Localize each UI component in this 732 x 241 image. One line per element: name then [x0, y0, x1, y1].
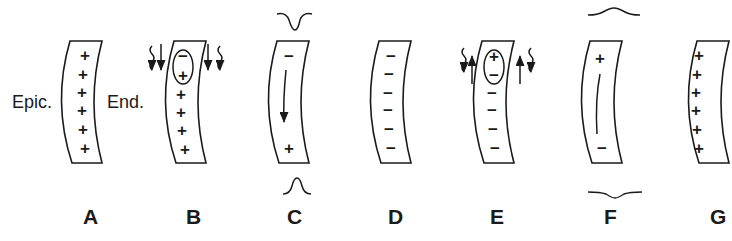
svg-text:+: +	[694, 46, 704, 65]
panel-b-label: B	[186, 205, 201, 228]
svg-text:+: +	[178, 66, 188, 85]
panel-g: + + + + + + G	[688, 41, 729, 228]
svg-text:+: +	[691, 101, 701, 120]
endocardium-label: End.	[107, 92, 144, 112]
svg-text:+: +	[692, 65, 702, 84]
svg-text:+: +	[180, 140, 190, 159]
svg-text:−: −	[386, 47, 396, 66]
svg-text:−: −	[384, 65, 394, 84]
svg-text:+: +	[691, 83, 701, 102]
svg-text:+: +	[694, 139, 704, 158]
panel-c-label: C	[287, 205, 302, 228]
panel-e-label: E	[490, 205, 504, 228]
panel-c: − + C	[268, 14, 312, 228]
svg-text:−: −	[488, 120, 498, 139]
svg-text:+: +	[80, 139, 90, 158]
panel-f-label: F	[604, 205, 617, 228]
svg-text:−: −	[487, 101, 497, 120]
svg-text:−: −	[489, 66, 499, 85]
svg-text:+: +	[284, 139, 294, 158]
svg-text:+: +	[78, 120, 88, 139]
panel-d-label: D	[388, 205, 403, 228]
svg-text:+: +	[176, 85, 186, 104]
svg-text:+: +	[489, 47, 499, 66]
svg-text:−: −	[384, 120, 394, 139]
diagram-figure: Epic. End. + + + + + + A − + + + + + B −…	[0, 0, 732, 241]
svg-text:−: −	[383, 101, 393, 120]
svg-text:−: −	[386, 139, 396, 158]
svg-text:−: −	[597, 139, 607, 158]
svg-text:+: +	[595, 49, 605, 68]
svg-text:+: +	[77, 83, 87, 102]
panel-e: + − − − − − E	[462, 41, 533, 228]
epicardium-label: Epic.	[12, 92, 52, 112]
svg-text:+: +	[177, 121, 187, 140]
svg-text:+: +	[78, 65, 88, 84]
panel-a: + + + + + + A	[61, 41, 102, 228]
svg-text:−: −	[490, 139, 500, 158]
svg-text:+: +	[77, 101, 87, 120]
panel-d: − − − − − − D	[370, 41, 411, 228]
panel-g-label: G	[710, 205, 726, 228]
svg-text:+: +	[692, 120, 702, 139]
panel-b: − + + + + + B	[150, 41, 222, 228]
svg-text:−: −	[178, 47, 188, 66]
svg-text:+: +	[80, 46, 90, 65]
svg-text:+: +	[176, 103, 186, 122]
svg-text:−: −	[284, 47, 294, 66]
panel-a-label: A	[83, 205, 98, 228]
panel-f: + − F	[581, 8, 642, 228]
